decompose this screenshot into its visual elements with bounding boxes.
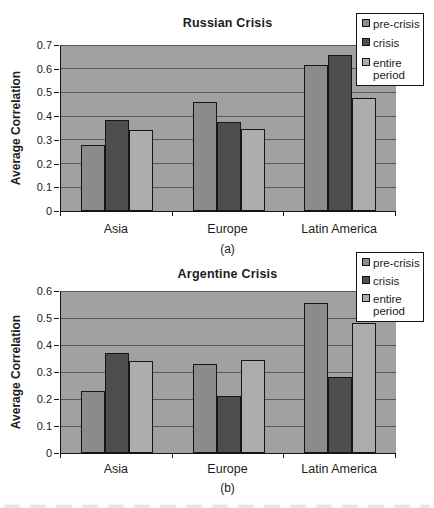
chart-title: Russian Crisis	[60, 16, 395, 30]
bar-entire-period-europe	[241, 129, 265, 211]
gridline	[61, 291, 396, 292]
y-tick-mark	[54, 92, 59, 93]
x-tick-mark	[60, 454, 61, 458]
bar-crisis-europe	[217, 122, 241, 211]
bar-entire-period-asia	[129, 130, 153, 211]
legend: pre-crisiscrisisentire period	[356, 13, 424, 86]
bar-pre-crisis-latin-america	[304, 303, 328, 453]
bar-entire-period-asia	[129, 361, 153, 453]
gridline	[61, 345, 396, 346]
x-tick-mark	[283, 454, 284, 458]
y-tick-label: 0.4	[22, 339, 52, 351]
plot-area	[60, 45, 396, 212]
category-label-asia: Asia	[104, 462, 128, 476]
bar-pre-crisis-asia	[81, 145, 105, 211]
legend-swatch-icon	[362, 38, 370, 46]
gridline	[61, 318, 396, 319]
chart-panel-b: Argentine Crisis Average Correlation pre…	[0, 248, 434, 508]
y-tick-label: 0	[22, 447, 52, 459]
legend-label: pre-crisis	[373, 257, 420, 269]
y-tick-label: 0.2	[22, 393, 52, 405]
bar-pre-crisis-europe	[193, 102, 217, 211]
legend-swatch-icon	[362, 294, 370, 302]
legend-label: crisis	[373, 275, 399, 287]
y-axis-title: Average Correlation	[9, 315, 23, 429]
x-tick-mark	[283, 212, 284, 216]
y-axis-title: Average Correlation	[9, 71, 23, 185]
legend-item-entire-period: entire period	[362, 57, 420, 81]
legend-item-crisis: crisis	[362, 275, 420, 287]
category-label-latin-america: Latin America	[301, 462, 377, 476]
y-tick-label: 0.2	[22, 158, 52, 170]
y-tick-label: 0	[22, 205, 52, 217]
chart-panel-a: Russian Crisis Average Correlation pre-c…	[0, 0, 434, 248]
y-tick-mark	[54, 426, 59, 427]
bar-pre-crisis-asia	[81, 391, 105, 453]
y-tick-label: 0.3	[22, 366, 52, 378]
scanned-figure-page: Russian Crisis Average Correlation pre-c…	[0, 0, 434, 508]
chart-title: Argentine Crisis	[60, 267, 395, 281]
category-label-europe: Europe	[207, 462, 247, 476]
bar-crisis-asia	[105, 120, 129, 211]
x-tick-mark	[395, 454, 396, 458]
y-tick-label: 0.3	[22, 134, 52, 146]
y-tick-mark	[54, 116, 59, 117]
legend: pre-crisiscrisisentire period	[356, 252, 424, 322]
y-tick-mark	[54, 318, 59, 319]
bar-crisis-latin-america	[328, 55, 352, 212]
y-tick-label: 0.1	[22, 181, 52, 193]
y-tick-mark	[54, 453, 59, 454]
y-tick-label: 0.6	[22, 285, 52, 297]
bar-entire-period-europe	[241, 360, 265, 453]
x-tick-mark	[172, 454, 173, 458]
y-tick-mark	[54, 140, 59, 141]
legend-label: entire period	[373, 293, 420, 317]
x-tick-mark	[60, 212, 61, 216]
y-tick-mark	[54, 399, 59, 400]
bar-crisis-latin-america	[328, 377, 352, 453]
bar-pre-crisis-europe	[193, 364, 217, 453]
legend-swatch-icon	[362, 276, 370, 284]
y-tick-mark	[54, 291, 59, 292]
y-tick-mark	[54, 69, 59, 70]
gridline	[61, 45, 396, 46]
legend-label: entire period	[373, 57, 420, 81]
category-label-asia: Asia	[104, 222, 128, 236]
y-tick-mark	[54, 372, 59, 373]
plot-area	[60, 291, 396, 454]
y-tick-mark	[54, 345, 59, 346]
legend-item-entire-period: entire period	[362, 293, 420, 317]
legend-item-pre-crisis: pre-crisis	[362, 257, 420, 269]
legend-label: pre-crisis	[373, 18, 420, 30]
legend-label: crisis	[373, 37, 399, 49]
x-tick-mark	[395, 212, 396, 216]
legend-item-crisis: crisis	[362, 37, 420, 49]
y-tick-label: 0.7	[22, 39, 52, 51]
y-tick-label: 0.1	[22, 420, 52, 432]
legend-item-pre-crisis: pre-crisis	[362, 18, 420, 30]
category-label-europe: Europe	[207, 222, 247, 236]
x-tick-mark	[172, 212, 173, 216]
y-tick-label: 0.5	[22, 86, 52, 98]
panel-label: (b)	[60, 481, 395, 495]
y-tick-label: 0.6	[22, 63, 52, 75]
bar-crisis-europe	[217, 396, 241, 453]
legend-swatch-icon	[362, 19, 370, 27]
y-tick-mark	[54, 164, 59, 165]
y-tick-mark	[54, 211, 59, 212]
bar-entire-period-latin-america	[352, 98, 376, 211]
y-tick-label: 0.5	[22, 312, 52, 324]
y-tick-mark	[54, 45, 59, 46]
legend-swatch-icon	[362, 58, 370, 66]
bar-pre-crisis-latin-america	[304, 65, 328, 211]
bar-crisis-asia	[105, 353, 129, 453]
y-tick-label: 0.4	[22, 110, 52, 122]
bar-entire-period-latin-america	[352, 323, 376, 453]
category-label-latin-america: Latin America	[301, 222, 377, 236]
y-tick-mark	[54, 187, 59, 188]
legend-swatch-icon	[362, 258, 370, 266]
